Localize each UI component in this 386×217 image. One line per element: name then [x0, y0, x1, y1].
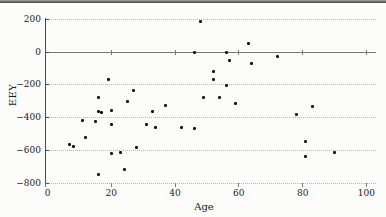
data-point: [132, 89, 135, 92]
data-point: [94, 120, 97, 123]
data-point: [68, 143, 71, 146]
y-tick-label--600: −600: [7, 146, 41, 155]
data-point: [250, 62, 253, 65]
y-tick-label-0: 0: [7, 48, 41, 57]
bottom-tick-20: [111, 183, 112, 187]
data-point: [119, 151, 122, 154]
data-point: [110, 109, 113, 112]
zero-axis-tick-20: [111, 50, 112, 55]
zero-axis-tick-40: [175, 50, 176, 55]
scatter-plot-figure: 2000−200−400−600−800020406080100 EEY Age: [0, 0, 386, 217]
x-zero-axis-line: [48, 52, 377, 53]
data-point: [311, 105, 314, 108]
x-tick-label-80: 80: [288, 189, 318, 198]
data-point: [193, 51, 196, 54]
data-point: [193, 127, 196, 130]
x-tick-label-60: 60: [224, 189, 254, 198]
data-point: [110, 152, 113, 155]
x-tick-label-20: 20: [96, 189, 126, 198]
data-point: [84, 136, 87, 139]
data-point: [212, 70, 215, 73]
gridline-y--600: [48, 150, 377, 151]
data-point: [304, 140, 307, 143]
data-point: [218, 96, 221, 99]
zero-axis-tick-100: [366, 50, 367, 55]
data-point: [100, 111, 103, 114]
x-tick-label-0: 0: [33, 189, 63, 198]
bottom-tick-80: [302, 183, 303, 187]
data-point: [151, 110, 154, 113]
gridline-y--200: [48, 84, 377, 85]
data-point: [247, 42, 250, 45]
x-axis-title: Age: [194, 201, 214, 212]
data-point: [202, 96, 205, 99]
data-point: [225, 51, 228, 54]
y-tick-label--800: −800: [7, 179, 41, 188]
data-point: [212, 78, 215, 81]
gridline-y--400: [48, 117, 377, 118]
data-point: [276, 55, 279, 58]
data-point: [225, 84, 228, 87]
data-point: [123, 168, 126, 171]
bottom-tick-60: [238, 183, 239, 187]
data-point: [154, 126, 157, 129]
data-point: [234, 102, 237, 105]
top-rule-line: [0, 0, 386, 3]
y-tick-label-200: 200: [7, 15, 41, 24]
data-point: [199, 20, 202, 23]
data-point: [126, 100, 129, 103]
gridline-y--800: [48, 183, 377, 184]
data-point: [333, 151, 336, 154]
x-tick-label-100: 100: [351, 189, 381, 198]
data-point: [97, 173, 100, 176]
y-tick-label--400: −400: [7, 113, 41, 122]
data-point: [110, 123, 113, 126]
data-point: [72, 145, 75, 148]
data-point: [304, 155, 307, 158]
bottom-tick-100: [366, 183, 367, 187]
gridline-y-200: [48, 19, 377, 20]
data-point: [164, 104, 167, 107]
x-tick-label-40: 40: [160, 189, 190, 198]
zero-axis-tick-80: [302, 50, 303, 55]
y-axis-title: EEY: [7, 84, 18, 107]
data-point: [145, 123, 148, 126]
data-point: [81, 119, 84, 122]
zero-axis-tick-60: [238, 50, 239, 55]
data-point: [180, 126, 183, 129]
data-point: [135, 146, 138, 149]
bottom-tick-0: [45, 183, 46, 187]
y-axis-line: [45, 18, 46, 185]
data-point: [228, 59, 231, 62]
data-point: [295, 113, 298, 116]
bottom-tick-40: [175, 183, 176, 187]
data-point: [107, 78, 110, 81]
data-point: [97, 96, 100, 99]
